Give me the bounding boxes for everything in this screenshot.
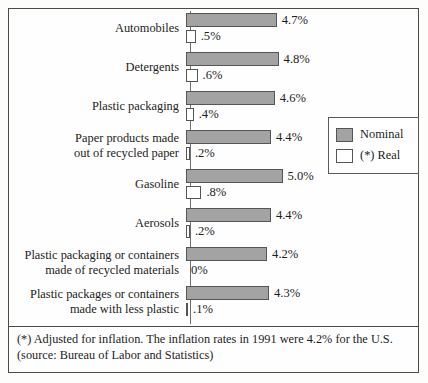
bar-nominal [186,13,277,27]
bar-group-real: 0% [186,263,208,277]
bar-value-label: .2% [195,146,215,161]
bar-value-label: .2% [195,224,215,239]
category-label: Plastic packaging or containers made of … [9,248,185,276]
legend-label-real: (*) Real [360,148,400,163]
legend-item-real: (*) Real [336,145,418,166]
bar-value-label: 4.2% [272,247,298,262]
bar-value-label: 4.3% [274,286,300,301]
bar-group-real: .2% [186,146,215,160]
bar-pair: 4.8%.6% [185,48,418,87]
bar-group-nominal: 4.4% [186,208,302,222]
bar-nominal [186,247,267,261]
category-label: Automobiles [9,21,185,35]
category-label: Aerosols [9,216,185,230]
bar-real [186,186,201,199]
bar-real [186,147,190,160]
bar-value-label: 4.4% [276,130,302,145]
bar-real [186,69,198,82]
bar-pair: 4.2%0% [185,243,418,282]
bar-group-real: .2% [186,224,215,238]
legend-item-nominal: Nominal [336,124,418,145]
bar-pair: 4.7%.5% [185,9,418,48]
chart-row: Plastic packages or containers made with… [9,282,418,321]
footnote: (*) Adjusted for inflation. The inflatio… [17,332,413,363]
chart-figure: Automobiles4.7%.5%Detergents4.8%.6%Plast… [0,0,428,383]
bar-value-label: .5% [201,29,221,44]
bar-group-nominal: 4.4% [186,130,302,144]
bar-value-label: 4.6% [280,91,306,106]
bar-group-nominal: 4.7% [186,13,308,27]
chart-row: Automobiles4.7%.5% [9,9,418,48]
footnote-line-1: (*) Adjusted for inflation. The inflatio… [17,332,413,348]
bar-nominal [186,91,275,105]
bar-value-label: 4.7% [282,13,308,28]
bar-group-nominal: 5.0% [186,169,314,183]
legend-swatch-real-icon [336,149,353,163]
bar-value-label: 0% [191,263,208,278]
bar-nominal [186,130,271,144]
bar-group-real: .4% [186,107,219,121]
footnote-line-2: (source: Bureau of Labor and Statistics) [17,348,413,364]
bar-value-label: .4% [199,107,219,122]
category-label: Detergents [9,60,185,74]
bar-group-nominal: 4.8% [186,52,310,66]
bar-real [186,303,188,316]
chart-legend: Nominal (*) Real [328,117,419,174]
category-label: Paper products made out of recycled pape… [9,131,185,159]
chart-row: Detergents4.8%.6% [9,48,418,87]
bar-nominal [186,52,279,66]
bar-real [186,225,190,238]
bar-value-label: .8% [206,185,226,200]
legend-swatch-nominal-icon [336,128,353,142]
chart-row: Plastic packaging or containers made of … [9,243,418,282]
bar-group-nominal: 4.6% [186,91,306,105]
bar-value-label: .6% [203,68,223,83]
bar-group-real: .8% [186,185,226,199]
category-label: Gasoline [9,177,185,191]
bar-value-label: .1% [193,302,213,317]
bar-group-real: .5% [186,29,221,43]
bar-pair: 4.3%.1% [185,282,418,321]
footnote-separator [9,326,418,327]
category-label: Plastic packaging [9,99,185,113]
bar-value-label: 4.8% [284,52,310,67]
bar-group-real: .1% [186,302,213,316]
bar-nominal [186,169,283,183]
bar-value-label: 5.0% [288,169,314,184]
category-label: Plastic packages or containers made with… [9,287,185,315]
bar-value-label: 4.4% [276,208,302,223]
legend-label-nominal: Nominal [360,127,403,142]
bar-real [186,108,194,121]
bar-nominal [186,208,271,222]
bar-group-nominal: 4.3% [186,286,300,300]
bar-nominal [186,286,269,300]
bar-group-real: .6% [186,68,223,82]
bar-pair: 4.4%.2% [185,204,418,243]
bar-group-nominal: 4.2% [186,247,298,261]
bar-real [186,30,196,43]
chart-row: Aerosols4.4%.2% [9,204,418,243]
